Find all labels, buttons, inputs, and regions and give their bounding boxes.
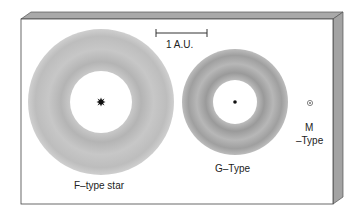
m-type-star-icon [309,102,311,104]
m-type-label-line1: M [305,122,313,133]
f-type-habitable-zone [28,29,174,175]
f-type-label: F–type star [74,180,124,191]
habitable-zone-diagram [0,0,355,215]
frame-side-edge [333,12,343,204]
f-type-star-icon [97,98,106,107]
scale-bar-label: 1 A.U. [166,39,193,50]
frame-top-edge [21,12,343,19]
g-type-star-icon [233,100,237,104]
g-type-habitable-zone [182,49,288,155]
m-type-label-line2: –Type [296,135,323,146]
g-type-label: G–Type [215,163,250,174]
